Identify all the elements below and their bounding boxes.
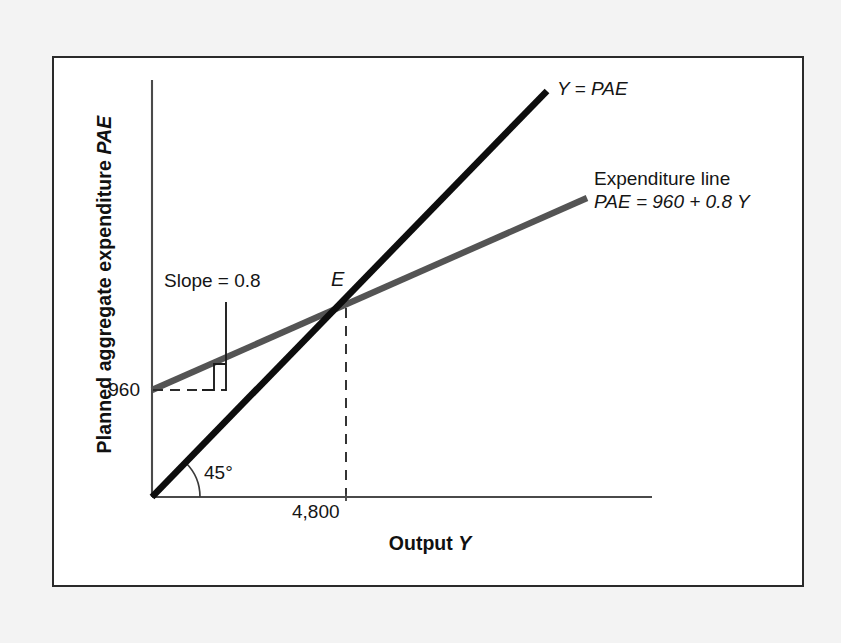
x-axis-title: Output Y: [54, 532, 806, 555]
label-expenditure-equation: PAE = 960 + 0.8 Y: [594, 191, 750, 213]
label-equilibrium-point: E: [331, 268, 344, 292]
y-axis-title: Planned aggregate expenditure PAE: [93, 75, 116, 495]
keynesian-cross-plot: [54, 58, 806, 589]
x-axis-tick-label-4800: 4,800: [292, 501, 340, 523]
y-axis-title-italic: PAE: [93, 116, 115, 155]
angle-arc-45: [186, 463, 200, 497]
label-expenditure-line: Expenditure line: [594, 168, 730, 190]
x-axis-title-main: Output: [389, 532, 458, 554]
expenditure-line: [152, 198, 587, 390]
label-y-equals-pae: Y = PAE: [557, 78, 628, 100]
figure-frame: Planned aggregate expenditure PAE Output…: [52, 56, 804, 587]
label-45-degree-angle: 45°: [204, 462, 233, 484]
x-axis-title-italic: Y: [458, 532, 471, 554]
label-slope-marker: Slope = 0.8: [164, 270, 261, 292]
line-45-degree-y-equals-pae: [152, 91, 547, 497]
y-axis-tick-label-960: 960: [92, 379, 140, 401]
y-axis-title-main: Planned aggregate expenditure: [93, 155, 115, 454]
